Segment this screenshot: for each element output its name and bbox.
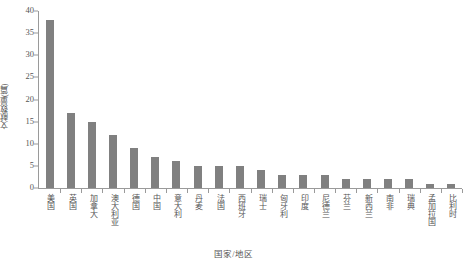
y-axis-tick-40: 40 [26, 6, 35, 15]
x-tickmark [272, 189, 273, 193]
bar-slot [39, 11, 60, 188]
bar[interactable] [172, 161, 180, 188]
x-axis-title: 国家/地区 [0, 247, 467, 259]
plot-area [39, 11, 462, 188]
bar-slot [314, 11, 335, 188]
x-tickmark [441, 189, 442, 193]
bar[interactable] [405, 179, 413, 188]
x-axis-tick-label: 尼德兰 [320, 194, 329, 218]
bar-slot [377, 11, 398, 188]
x-tickmark [60, 189, 61, 193]
bar[interactable] [194, 166, 202, 188]
bar[interactable] [342, 179, 350, 188]
bar-slot [356, 11, 377, 188]
y-tickmark [34, 33, 38, 34]
x-axis-tick-label: 比利时 [447, 194, 456, 218]
x-tickmark [314, 189, 315, 193]
bar[interactable] [299, 175, 307, 188]
bar-slot [251, 11, 272, 188]
bar-slot [145, 11, 166, 188]
y-axis-tick-35: 35 [26, 28, 35, 37]
y-axis-tick-30: 30 [26, 50, 35, 59]
y-tickmark [34, 77, 38, 78]
x-axis-tick-label: 美国 [45, 194, 54, 210]
x-axis-tick-label: 加拿大 [88, 194, 97, 218]
bar-slot [441, 11, 462, 188]
bar-slot [102, 11, 123, 188]
y-tickmark [34, 165, 38, 166]
x-tickmark [81, 189, 82, 193]
bar[interactable] [215, 166, 223, 188]
x-tickmark [102, 189, 103, 193]
bar[interactable] [384, 179, 392, 188]
y-tickmark [34, 188, 38, 189]
x-axis-tick-labels: 美国英国加拿大澳大利亚德国中国意大利丹麦法国西班牙瑞士匈牙利印度尼德兰芬兰新西兰… [39, 194, 462, 246]
y-axis-tick-25: 25 [26, 72, 35, 81]
bar[interactable] [46, 20, 54, 188]
x-axis-tick-label: 意大利 [172, 194, 181, 218]
bar-slot [420, 11, 441, 188]
x-axis-tick-label: 澳大利亚 [109, 194, 118, 226]
bar[interactable] [321, 175, 329, 188]
bar-slot [81, 11, 102, 188]
bar-slot [335, 11, 356, 188]
bar[interactable] [88, 122, 96, 188]
x-tickmark [145, 189, 146, 193]
x-axis-tick-label: 芬兰 [341, 194, 350, 210]
x-tickmark [462, 189, 463, 193]
y-axis-tick-10: 10 [26, 139, 35, 148]
bar[interactable] [67, 113, 75, 188]
x-axis-tick-label: 南非 [384, 194, 393, 210]
x-axis-tick-label: 匈牙利 [278, 194, 287, 218]
y-tickmark [34, 143, 38, 144]
x-axis-tick-label: 西班牙 [236, 194, 245, 218]
bar-slot [124, 11, 145, 188]
bar[interactable] [426, 184, 434, 188]
y-axis-tick-labels: 0510152025303540 [14, 10, 36, 188]
x-tickmark [356, 189, 357, 193]
x-tickmark [187, 189, 188, 193]
x-tickmark [293, 189, 294, 193]
x-axis-tick-label: 孟加拉国 [426, 194, 435, 226]
y-tickmark [34, 121, 38, 122]
bar-chart: 文献数量(篇) 0510152025303540 美国英国加拿大澳大利亚德国中国… [0, 0, 467, 275]
x-axis-tick-label: 瑞士 [257, 194, 266, 210]
x-tickmark [420, 189, 421, 193]
x-axis-tick-label: 中国 [151, 194, 160, 210]
bar[interactable] [447, 184, 455, 188]
y-tickmark [34, 11, 38, 12]
x-axis-tick-label: 印度 [299, 194, 308, 210]
bar[interactable] [151, 157, 159, 188]
bar-slot [399, 11, 420, 188]
x-tickmark [124, 189, 125, 193]
bar[interactable] [257, 170, 265, 188]
bar[interactable] [236, 166, 244, 188]
x-tickmark [377, 189, 378, 193]
bar[interactable] [130, 148, 138, 188]
bar-slot [166, 11, 187, 188]
bar[interactable] [109, 135, 117, 188]
x-tickmark [229, 189, 230, 193]
x-axis-tick-label: 新西兰 [363, 194, 372, 218]
bar-slot [293, 11, 314, 188]
bar[interactable] [363, 179, 371, 188]
bar-slot [187, 11, 208, 188]
y-tickmark [34, 55, 38, 56]
x-axis-tick-label: 丹麦 [193, 194, 202, 210]
x-tickmark [399, 189, 400, 193]
bar-slot [60, 11, 81, 188]
bar-slot [208, 11, 229, 188]
bar-slot [229, 11, 250, 188]
bar-slot [272, 11, 293, 188]
y-axis-tick-20: 20 [26, 94, 35, 103]
x-tickmark [208, 189, 209, 193]
x-tickmark [166, 189, 167, 193]
x-axis-tick-label: 英国 [66, 194, 75, 210]
y-tickmark [34, 99, 38, 100]
y-axis-tick-15: 15 [26, 116, 35, 125]
x-tickmark [251, 189, 252, 193]
x-axis-tick-label: 德国 [130, 194, 139, 210]
x-tickmark [335, 189, 336, 193]
x-axis-tick-label: 法国 [214, 194, 223, 210]
bar[interactable] [278, 175, 286, 188]
